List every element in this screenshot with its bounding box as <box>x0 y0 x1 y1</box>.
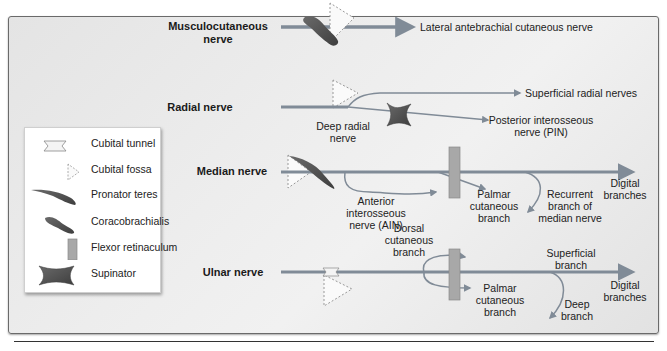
musculocutaneous-nerve-label-line1: Musculocutaneous <box>168 20 268 32</box>
cubital-tunnel-icon <box>31 134 89 156</box>
median-palmar-label-line3: branch <box>478 212 510 224</box>
legend: Cubital tunnel Cubital fossa Pronator te… <box>24 127 161 293</box>
ulnar-superficial-label-line1: Superficial <box>546 247 595 259</box>
superficial-radial-branch-line <box>348 93 520 107</box>
palmar-cutaneous-branch-line <box>438 172 485 189</box>
legend-item-pronator-teres: Pronator teres <box>25 185 160 207</box>
legend-label: Pronator teres <box>91 188 158 200</box>
median-nerve-label: Median nerve <box>197 165 267 177</box>
lateral-antebrachial-cutaneous-label: Lateral antebrachial cutaneous nerve <box>420 21 593 33</box>
posterior-interosseous-branch-line <box>348 107 488 120</box>
supinator-icon <box>387 103 411 126</box>
ain-label-line2: interosseous <box>346 207 406 219</box>
supinator-icon <box>31 264 89 286</box>
coracobrachialis-icon <box>31 212 89 234</box>
deep-branch-label-line2: branch <box>561 310 593 322</box>
ulnar-palmar-label-line2: cutaneous <box>476 294 524 306</box>
legend-item-cubital-fossa: Cubital fossa <box>25 160 160 182</box>
legend-label: Flexor retinaculum <box>91 241 177 253</box>
median-digital-label-line1: Digital <box>610 177 639 189</box>
dorsal-cutaneous-label-line1: Dorsal <box>394 222 424 234</box>
legend-item-supinator: Supinator <box>25 264 160 286</box>
pin-label-line2: nerve (PIN) <box>514 126 568 138</box>
superficial-radial-nerves-label: Superficial radial nerves <box>525 87 637 99</box>
legend-item-cubital-tunnel: Cubital tunnel <box>25 134 160 156</box>
median-palmar-label-line1: Palmar <box>477 188 511 200</box>
ulnar-palmar-label-line3: branch <box>484 306 516 318</box>
legend-label: Cubital tunnel <box>91 137 155 149</box>
legend-item-flexor-retinaculum: Flexor retinaculum <box>25 238 160 260</box>
median-nerve-group: Median nerve Anterior interosseous nerve… <box>197 147 647 231</box>
pin-label-line1: Posterior interosseous <box>489 114 593 126</box>
musculocutaneous-nerve-group: Musculocutaneous nerve Lateral antebrach… <box>168 3 593 46</box>
ulnar-nerve-group: Ulnar nerve Dorsal cutaneous branch Supe… <box>203 222 647 322</box>
radial-nerve-group: Radial nerve Deep radial nerve Superfici… <box>167 80 637 144</box>
deep-branch-label-line1: Deep <box>564 298 589 310</box>
ain-branch-line <box>345 172 436 194</box>
ulnar-digital-label-line2: branches <box>603 291 646 303</box>
legend-item-coracobrachialis: Coracobrachialis <box>25 212 160 234</box>
cubital-fossa-icon <box>324 275 352 306</box>
ulnar-palmar-label-line1: Palmar <box>483 282 517 294</box>
cubital-fossa-icon <box>31 160 89 182</box>
musculocutaneous-nerve-label-line2: nerve <box>203 33 232 45</box>
dorsal-cutaneous-label-line2: cutaneous <box>385 234 433 246</box>
ulnar-digital-label-line1: Digital <box>610 279 639 291</box>
dorsal-cutaneous-label-line3: branch <box>393 246 425 258</box>
radial-nerve-label: Radial nerve <box>167 101 232 113</box>
median-palmar-label-line2: cutaneous <box>470 200 518 212</box>
legend-label: Supinator <box>91 267 136 279</box>
ulnar-nerve-label: Ulnar nerve <box>203 266 264 278</box>
flexor-retinaculum-icon <box>31 238 89 260</box>
deep-radial-nerve-label-line2: nerve <box>330 132 356 144</box>
legend-label: Coracobrachialis <box>91 215 169 227</box>
recurrent-branch-line <box>525 172 540 212</box>
recurrent-label-line2: branch of <box>548 200 592 212</box>
recurrent-label-line3: median nerve <box>538 212 602 224</box>
ulnar-superficial-label-line2: branch <box>555 259 587 271</box>
ain-label-line1: Anterior <box>358 195 395 207</box>
flexor-retinaculum-icon <box>449 147 460 198</box>
cubital-fossa-icon <box>333 80 358 108</box>
legend-label: Cubital fossa <box>91 163 152 175</box>
pronator-teres-icon <box>31 185 89 207</box>
recurrent-label-line1: Recurrent <box>547 188 593 200</box>
median-digital-label-line2: branches <box>603 189 646 201</box>
deep-radial-nerve-label-line1: Deep radial <box>316 120 370 132</box>
ulnar-palmar-branch-line <box>424 272 470 288</box>
flexor-retinaculum-icon <box>449 249 460 300</box>
